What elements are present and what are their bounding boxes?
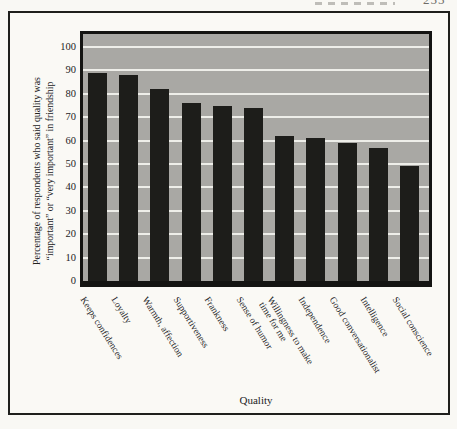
y-tick-label-30: 30 — [42, 205, 76, 217]
plot-area — [80, 31, 432, 287]
y-tick-label-90: 90 — [42, 64, 76, 76]
y-tick-label-100: 100 — [42, 41, 76, 53]
bar-8 — [306, 138, 325, 281]
bar-11 — [400, 166, 419, 281]
x-axis-category-labels: Keeps confidencesLoyaltyWarmth, affectio… — [83, 293, 443, 408]
y-axis-tick-labels: 0102030405060708090100 — [42, 34, 76, 281]
cropped-page-number: 255 — [423, 0, 453, 6]
x-category-label-2: Loyalty — [109, 295, 133, 325]
x-axis-title: Quality — [80, 394, 432, 406]
y-tick-label-10: 10 — [42, 252, 76, 264]
y-tick-label-0: 0 — [42, 275, 76, 287]
x-category-label-5: Frankness — [203, 295, 232, 333]
y-tick-label-70: 70 — [42, 111, 76, 123]
scanned-book-page: 255 Percentage of respondents who said q… — [0, 0, 457, 429]
bar-1 — [88, 73, 107, 281]
y-tick-label-40: 40 — [42, 181, 76, 193]
cropped-text-fragment — [315, 2, 395, 5]
figure-frame: Percentage of respondents who said quali… — [8, 11, 450, 415]
x-category-label-11: Social conscience — [390, 295, 434, 358]
bar-2 — [119, 75, 138, 281]
bar-4 — [182, 103, 201, 281]
bar-9 — [338, 143, 357, 281]
gridline-100 — [83, 46, 429, 48]
bar-7 — [275, 136, 294, 281]
bar-3 — [150, 89, 169, 281]
cropped-running-head: 255 — [315, 0, 455, 6]
y-tick-label-50: 50 — [42, 158, 76, 170]
bar-6 — [244, 108, 263, 281]
page-number-text: 255 — [423, 0, 453, 6]
y-tick-label-80: 80 — [42, 88, 76, 100]
bar-10 — [369, 148, 388, 281]
gridline-90 — [83, 69, 429, 71]
x-category-label-8: Independence — [296, 295, 332, 345]
y-tick-label-20: 20 — [42, 228, 76, 240]
x-category-label-10: Intelligence — [359, 295, 391, 338]
y-tick-label-60: 60 — [42, 135, 76, 147]
bar-5 — [213, 106, 232, 282]
